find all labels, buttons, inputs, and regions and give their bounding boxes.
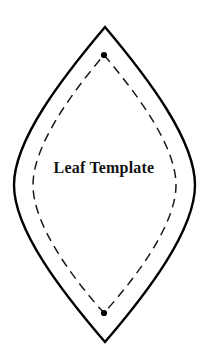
leaf-template-canvas: Leaf Template	[0, 0, 208, 364]
leaf-template-graphic	[0, 0, 208, 364]
top-vertex-dot	[101, 52, 107, 58]
bottom-vertex-dot	[101, 310, 107, 316]
